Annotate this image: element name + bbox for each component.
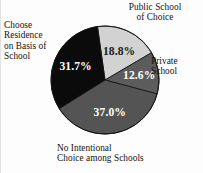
pie-chart-figure: 18.8%12.6%37.0%31.7% Public School of Ch… [0, 0, 203, 173]
pie-slice-value-no-intentional-choice-among-schools: 37.0% [94, 106, 126, 119]
slice-label-private-school: Private School [151, 56, 203, 77]
slice-label-choose-residence-on-basis-of-school: Choose Residence on Basis of School [4, 20, 70, 62]
slice-label-no-intentional-choice-among-schools: No Intentional Choice among Schools [57, 143, 203, 164]
pie-slice-value-choose-residence-on-basis-of-school: 31.7% [59, 60, 91, 73]
slice-label-public-school-of-choice: Public School of Choice [109, 2, 201, 23]
pie-slice-value-public-school-of-choice: 18.8% [103, 45, 135, 58]
